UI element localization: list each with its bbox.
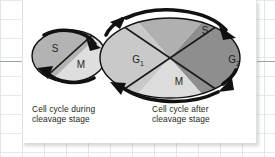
large-label-s: S	[202, 25, 209, 36]
caption-right: Cell cycle after cleavage stage	[152, 104, 252, 125]
large-arrow-bottomleft-head-icon	[110, 82, 126, 95]
large-label-g1-sub: 1	[140, 60, 144, 67]
caption-left: Cell cycle during cleavage stage	[32, 104, 132, 125]
small-label-s: S	[52, 43, 59, 54]
small-label-m: M	[77, 59, 85, 70]
large-label-m: M	[175, 76, 183, 87]
figure-root: S M	[0, 0, 275, 157]
large-label-g2-sub: 2	[236, 60, 240, 67]
